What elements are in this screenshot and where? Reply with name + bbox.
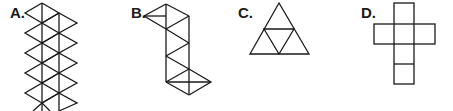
figures-canvas	[0, 0, 453, 111]
figure-b-triangle-net	[144, 4, 211, 95]
figure-c-tetrahedron-net	[250, 3, 309, 54]
figure-a-triangle-strip-net	[25, 3, 77, 111]
figure-d-cube-net	[374, 3, 435, 84]
